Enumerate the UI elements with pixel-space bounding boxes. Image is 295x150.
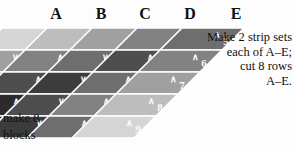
strip-value-e-row4: 8	[157, 101, 163, 113]
instruction-note-left: make 8 blocks	[3, 110, 39, 144]
strip-mark-e-row2: ∧	[192, 52, 199, 62]
strip-mark-e-row4: ∧	[148, 96, 155, 106]
instruction-note-right: Make 2 strip sets each of A–E; cut 8 row…	[207, 30, 292, 88]
note-right-line-3: cut 8 rows	[207, 59, 292, 74]
note-right-line-4: A–E.	[207, 74, 292, 89]
quilt-diagram-stage: ABCDE 9▷7∨5∨3∨1∨8▷6∧4∧2∧1∧7▷5∨3∨4∨3∨6▷4∧…	[0, 0, 295, 150]
note-right-line-1: Make 2 strip sets	[207, 30, 292, 45]
strip-mark-e-row5: ∧	[126, 118, 133, 128]
note-left-line-1: make 8	[3, 110, 39, 127]
note-right-line-2: each of A–E;	[207, 45, 292, 60]
strip-value-e-row5: 9	[135, 123, 141, 135]
strip-mark-e-row3: ∧	[170, 74, 177, 84]
strip-value-e-row3: 7	[179, 79, 185, 91]
note-left-line-2: blocks	[3, 127, 39, 144]
